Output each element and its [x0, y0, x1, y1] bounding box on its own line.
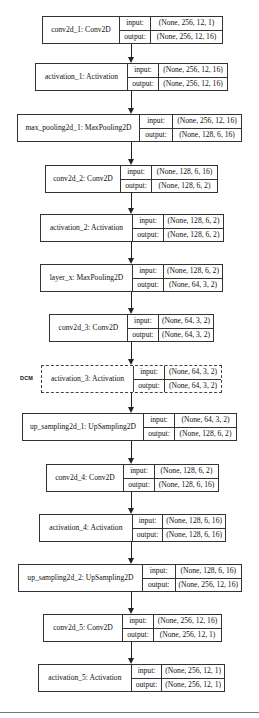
- io-values: (None, 128, 6, 16) (None, 128, 6, 2): [152, 166, 217, 192]
- io-labels: input: output:: [134, 366, 165, 392]
- arrowhead-icon: [128, 558, 134, 564]
- io-labels: input: output:: [133, 215, 164, 241]
- io-values: (None, 256, 12, 16) (None, 256, 12, 16): [159, 64, 227, 90]
- input-shape: (None, 128, 6, 2): [164, 265, 222, 279]
- input-shape: (None, 64, 3, 2): [175, 414, 236, 428]
- output-shape: (None, 256, 12, 1): [162, 679, 224, 692]
- output-label: output:: [120, 31, 150, 44]
- io-values: (None, 128, 6, 2) (None, 128, 6, 16): [155, 465, 218, 491]
- layer-node-layer-x: layer_x: MaxPooling2D input: output: (No…: [40, 264, 223, 292]
- arrowhead-icon: [128, 57, 134, 63]
- io-labels: input: output:: [132, 665, 163, 691]
- input-label: input:: [144, 414, 174, 428]
- output-label: output:: [128, 78, 158, 91]
- arrowhead-icon: [128, 159, 134, 165]
- layer-node-activation-1: activation_1: Activation input: output: …: [35, 63, 228, 91]
- layer-name: up_sampling2d_2: UpSampling2D: [19, 565, 143, 591]
- output-shape: (None, 256, 12, 16): [151, 31, 222, 44]
- input-label: input:: [128, 64, 158, 78]
- input-label: input:: [133, 515, 163, 529]
- arrowhead-icon: [128, 108, 134, 114]
- layer-name: activation_5: Activation: [39, 665, 132, 691]
- input-label: input:: [132, 665, 162, 679]
- output-label: output:: [134, 380, 164, 393]
- arrowhead-icon: [128, 308, 134, 314]
- input-label: input:: [133, 215, 163, 229]
- output-shape: (None, 128, 6, 2): [152, 180, 217, 193]
- edge-line: [131, 441, 132, 458]
- layer-name: conv2d_5: Conv2D: [44, 615, 123, 641]
- dcm-annotation: DCM: [20, 375, 33, 381]
- edge-line: [131, 642, 132, 658]
- layer-node-activation-3: activation_3: Activation input: output: …: [41, 365, 222, 393]
- input-shape: (None, 256, 12, 1): [151, 17, 222, 31]
- layer-node-conv2d-1: conv2d_1: Conv2D input: output: (None, 2…: [42, 16, 223, 44]
- edge-line: [131, 491, 132, 508]
- output-label: output:: [143, 579, 175, 592]
- io-labels: input: output:: [144, 414, 175, 440]
- io-values: (None, 128, 6, 16) (None, 128, 6, 16): [163, 515, 225, 541]
- output-shape: (None, 128, 6, 16): [155, 479, 218, 492]
- input-shape: (None, 256, 12, 16): [159, 64, 227, 78]
- layer-name: conv2d_3: Conv2D: [50, 315, 128, 341]
- edge-line: [131, 192, 132, 208]
- output-label: output:: [121, 180, 151, 193]
- layer-name: conv2d_2: Conv2D: [46, 166, 121, 192]
- layer-node-activation-2: activation_2: Activation input: output: …: [40, 214, 224, 242]
- io-values: (None, 256, 12, 1) (None, 256, 12, 1): [162, 665, 224, 691]
- edge-line: [131, 91, 132, 108]
- output-shape: (None, 64, 3, 2): [159, 329, 213, 342]
- io-labels: input: output:: [121, 166, 152, 192]
- input-shape: (None, 256, 12, 16): [173, 115, 241, 129]
- output-label: output:: [144, 428, 174, 441]
- input-label: input:: [123, 615, 153, 629]
- input-label: input:: [134, 366, 164, 380]
- input-label: input:: [143, 565, 175, 579]
- io-values: (None, 256, 12, 16) (None, 256, 12, 1): [154, 615, 221, 641]
- input-label: input:: [120, 17, 150, 31]
- bottom-divider: [0, 712, 259, 713]
- input-label: input:: [124, 465, 154, 479]
- input-shape: (None, 64, 3, 2): [165, 366, 221, 380]
- io-values: (None, 128, 6, 2) (None, 64, 3, 2): [164, 265, 222, 291]
- output-label: output:: [132, 679, 162, 692]
- arrowhead-icon: [128, 508, 134, 514]
- io-labels: input: output:: [124, 465, 155, 491]
- layer-name: up_sampling2d_1: UpSampling2D: [23, 414, 144, 440]
- output-shape: (None, 256, 12, 16): [176, 579, 241, 592]
- output-shape: (None, 128, 6, 16): [173, 129, 241, 142]
- input-shape: (None, 128, 6, 16): [152, 166, 217, 180]
- layer-node-up-sampling2d-1: up_sampling2d_1: UpSampling2D input: out…: [22, 413, 237, 441]
- input-shape: (None, 128, 6, 2): [164, 215, 223, 229]
- io-labels: input: output:: [128, 315, 159, 341]
- io-values: (None, 128, 6, 2) (None, 128, 6, 2): [164, 215, 223, 241]
- output-shape: (None, 64, 3, 2): [164, 279, 222, 292]
- output-label: output:: [133, 279, 163, 292]
- arrowhead-icon: [128, 407, 134, 413]
- io-labels: input: output:: [128, 64, 159, 90]
- output-label: output:: [140, 129, 172, 142]
- layer-node-conv2d-4: conv2d_4: Conv2D input: output: (None, 1…: [46, 464, 219, 492]
- input-label: input:: [133, 265, 163, 279]
- layer-name: activation_4: Activation: [40, 515, 133, 541]
- arrowhead-icon: [128, 458, 134, 464]
- io-labels: input: output:: [133, 265, 164, 291]
- layer-name: max_pooling2d_1: MaxPooling2D: [18, 115, 140, 141]
- layer-name: conv2d_4: Conv2D: [47, 465, 124, 491]
- layer-name: activation_1: Activation: [36, 64, 128, 90]
- io-values: (None, 64, 3, 2) (None, 64, 3, 2): [165, 366, 221, 392]
- input-shape: (None, 128, 6, 16): [176, 565, 241, 579]
- layer-node-up-sampling2d-2: up_sampling2d_2: UpSampling2D input: out…: [18, 564, 242, 592]
- layer-node-activation-5: activation_5: Activation input: output: …: [38, 664, 225, 692]
- arrowhead-icon: [128, 208, 134, 214]
- arrowhead-icon: [128, 359, 134, 365]
- input-label: input:: [128, 315, 158, 329]
- layer-name: conv2d_1: Conv2D: [43, 17, 120, 43]
- io-labels: input: output:: [120, 17, 151, 43]
- input-shape: (None, 256, 12, 16): [154, 615, 221, 629]
- input-shape: (None, 128, 6, 16): [163, 515, 225, 529]
- layer-name: layer_x: MaxPooling2D: [41, 265, 133, 291]
- output-label: output:: [124, 479, 154, 492]
- arrowhead-icon: [128, 658, 134, 664]
- io-labels: input: output:: [133, 515, 164, 541]
